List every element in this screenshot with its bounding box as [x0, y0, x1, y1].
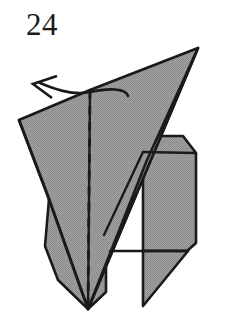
bottom-tab-shape: [143, 251, 188, 306]
origami-figure: [0, 0, 228, 326]
panel-top-seam: [143, 152, 196, 153]
origami-diagram-canvas: 24: [0, 0, 228, 326]
paper-shapes-group: [19, 48, 198, 309]
